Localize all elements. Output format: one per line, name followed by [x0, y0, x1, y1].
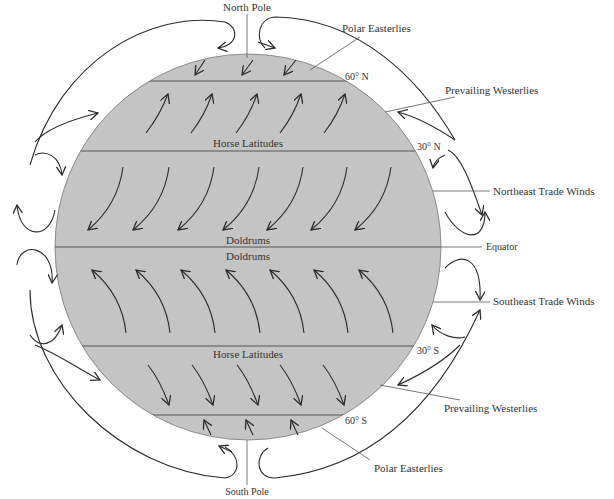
prevailing-westerlies-south-label: Prevailing Westerlies: [444, 402, 537, 414]
doldrums-south-label: Doldrums: [226, 250, 270, 262]
south-pole-label: South Pole: [225, 486, 269, 497]
prevailing-westerlies-north-label: Prevailing Westerlies: [445, 84, 538, 96]
horse-latitudes-south-label: Horse Latitudes: [213, 348, 283, 360]
equator-label: Equator: [486, 241, 518, 252]
lat-60n-label: 60° N: [345, 71, 369, 82]
polar-easterlies-north-label: Polar Easterlies: [342, 22, 411, 34]
wind-circulation-diagram: North Pole Polar Easterlies Prevailing W…: [0, 0, 614, 499]
southeast-trade-winds-label: Southeast Trade Winds: [493, 295, 594, 307]
doldrums-north-label: Doldrums: [226, 234, 270, 246]
lat-60s-label: 60° S: [345, 415, 367, 426]
northeast-trade-winds-label: Northeast Trade Winds: [493, 185, 594, 197]
polar-easterlies-south-label: Polar Easterlies: [374, 462, 443, 474]
lat-30n-label: 30° N: [417, 141, 441, 152]
lat-30s-label: 30° S: [417, 345, 439, 356]
horse-latitudes-north-label: Horse Latitudes: [213, 137, 283, 149]
north-pole-label: North Pole: [223, 1, 271, 13]
